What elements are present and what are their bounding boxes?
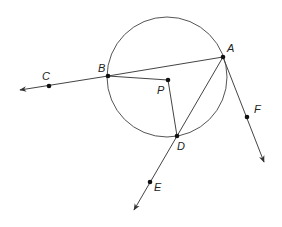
label-f: F <box>254 103 262 115</box>
point-c <box>47 84 52 89</box>
segment-ba <box>108 57 223 76</box>
label-d: D <box>177 140 185 152</box>
ray-bc <box>20 76 108 90</box>
point-e <box>148 180 153 185</box>
labels: ABCPDEF <box>42 42 262 193</box>
points <box>47 55 250 185</box>
segment-bp <box>108 76 168 80</box>
point-a <box>221 55 226 60</box>
geometry-diagram: ABCPDEF <box>0 0 282 227</box>
label-a: A <box>226 42 234 54</box>
segment-pd <box>168 80 177 136</box>
point-b <box>106 74 111 79</box>
point-f <box>245 115 250 120</box>
label-p: P <box>157 84 165 96</box>
point-p <box>166 78 171 83</box>
point-d <box>175 134 180 139</box>
label-c: C <box>42 70 50 82</box>
label-e: E <box>154 181 162 193</box>
label-b: B <box>98 62 105 74</box>
